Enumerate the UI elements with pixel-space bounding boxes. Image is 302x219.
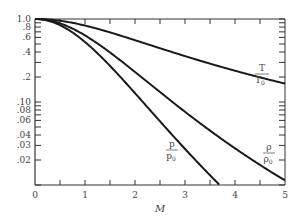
x-tick-label: 3 xyxy=(182,190,188,200)
curve-rho-over-rho0 xyxy=(35,19,285,180)
x-tick-label: 4 xyxy=(232,190,238,200)
label-T-num: T xyxy=(259,63,265,73)
curve-p-over-p0 xyxy=(35,19,219,184)
label-rho-den: ρ0 xyxy=(263,154,272,165)
y-tick-label: .02 xyxy=(17,155,31,165)
y-tick-label: .06 xyxy=(17,115,32,125)
y-tick-label: .2 xyxy=(22,72,31,82)
x-tick-label: 1 xyxy=(82,190,88,200)
x-axis-title: M xyxy=(154,203,166,214)
y-tick-label: .8 xyxy=(22,22,31,32)
x-tick-label: 5 xyxy=(282,190,288,200)
y-tick-label: .4 xyxy=(22,47,31,57)
x-tick-label: 2 xyxy=(132,190,138,200)
label-p-den: p0 xyxy=(166,151,176,162)
chart: 012345 1.0.8.6.4.2.10.08.06.04.03.02 M T… xyxy=(0,0,302,219)
y-ticks: 1.0.8.6.4.2.10.08.06.04.03.02 xyxy=(17,14,285,185)
y-tick-label: .6 xyxy=(22,32,31,42)
x-tick-label: 0 xyxy=(32,190,38,200)
curves xyxy=(35,19,285,184)
label-T-over-T0: T T0 xyxy=(255,63,269,86)
x-ticks: 012345 xyxy=(32,19,288,200)
label-p-over-p0: p p0 xyxy=(166,139,178,162)
plot-frame xyxy=(35,19,285,185)
y-tick-label: .04 xyxy=(17,130,32,140)
label-T-den: T0 xyxy=(255,75,265,86)
label-p-num: p xyxy=(169,139,175,149)
label-rho-over-rho0: ρ ρ0 xyxy=(263,142,275,165)
y-tick-label: .03 xyxy=(17,140,32,150)
y-tick-label: .08 xyxy=(17,105,32,115)
label-rho-num: ρ xyxy=(266,142,271,152)
